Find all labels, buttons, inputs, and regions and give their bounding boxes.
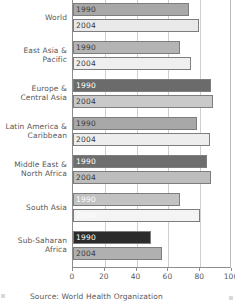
category-label-line: South Asia [0, 203, 67, 212]
tick-mark-20 [104, 268, 105, 271]
category-label: Europe &Central Asia [0, 84, 67, 102]
bar-1990: 1990 [73, 117, 197, 130]
bar-1990: 1990 [73, 79, 211, 92]
category-label-line: Africa [0, 245, 67, 254]
page-corner-artifact-right [229, 296, 233, 300]
bar-1990: 1990 [73, 3, 189, 16]
tick-label-80: 80 [194, 272, 204, 281]
bar-2004: 2004 [73, 57, 191, 70]
category-label-line: Pacific [0, 55, 67, 64]
bar-series-label: 1990 [74, 234, 96, 242]
category-label-line: Europe & [0, 84, 67, 93]
category-label-line: World [0, 13, 67, 22]
tick-label-60: 60 [163, 272, 173, 281]
bar-group: 19902004 [73, 190, 230, 228]
plot-area: 1990200419902004199020041990200419902004… [72, 0, 231, 268]
bar-2004: 2004 [73, 133, 210, 146]
bar-series-label: 2004 [74, 250, 96, 258]
bar-series-label: 2004 [74, 212, 96, 220]
tick-label-40: 40 [131, 272, 141, 281]
page-corner-artifact-left [1, 294, 5, 298]
tick-label-20: 20 [99, 272, 109, 281]
category-label-line: North Africa [0, 169, 67, 178]
tick-label-100: 100 [224, 272, 235, 281]
category-axis-labels: WorldEast Asia &PacificEurope &Central A… [0, 0, 70, 268]
tick-mark-100 [231, 268, 232, 271]
bar-1990: 1990 [73, 41, 180, 54]
category-label-line: Caribbean [0, 131, 67, 140]
chart-container: WorldEast Asia &PacificEurope &Central A… [0, 0, 235, 308]
category-label: East Asia &Pacific [0, 46, 67, 64]
category-label-line: Sub-Saharan [0, 236, 67, 245]
bar-series-label: 2004 [74, 60, 96, 68]
category-label: South Asia [0, 203, 67, 212]
category-label-line: East Asia & [0, 46, 67, 55]
bar-group: 19902004 [73, 0, 230, 38]
bar-series-label: 2004 [74, 136, 96, 144]
bar-series-label: 1990 [74, 44, 96, 52]
bar-series-label: 2004 [74, 98, 96, 106]
bar-series-label: 1990 [74, 6, 96, 14]
bar-groups: 1990200419902004199020041990200419902004… [73, 0, 230, 267]
bar-group: 19902004 [73, 228, 230, 266]
tick-label-0: 0 [70, 272, 75, 281]
category-label: Latin America &Caribbean [0, 122, 67, 140]
bar-2004: 2004 [73, 209, 200, 222]
bar-1990: 1990 [73, 231, 151, 244]
source-note: Source: World Health Organization [30, 292, 163, 301]
bar-series-label: 1990 [74, 158, 96, 166]
bar-2004: 2004 [73, 247, 162, 260]
bar-series-label: 1990 [74, 82, 96, 90]
category-label: World [0, 13, 67, 22]
bar-series-label: 2004 [74, 174, 96, 182]
tick-mark-60 [167, 268, 168, 271]
tick-mark-40 [136, 268, 137, 271]
bar-group: 19902004 [73, 38, 230, 76]
bar-2004: 2004 [73, 95, 213, 108]
tick-mark-80 [199, 268, 200, 271]
category-label-line: Latin America & [0, 122, 67, 131]
category-label: Sub-SaharanAfrica [0, 236, 67, 254]
bar-group: 19902004 [73, 76, 230, 114]
bar-series-label: 2004 [74, 22, 96, 30]
bar-1990: 1990 [73, 155, 207, 168]
bar-2004: 2004 [73, 19, 199, 32]
category-label-line: Middle East & [0, 160, 67, 169]
bar-2004: 2004 [73, 171, 211, 184]
bar-group: 19902004 [73, 152, 230, 190]
bar-group: 19902004 [73, 114, 230, 152]
category-label-line: Central Asia [0, 93, 67, 102]
value-axis: 020406080100 [72, 268, 231, 284]
bar-series-label: 1990 [74, 120, 96, 128]
bar-1990: 1990 [73, 193, 180, 206]
tick-mark-0 [72, 268, 73, 271]
bar-series-label: 1990 [74, 196, 96, 204]
category-label: Middle East &North Africa [0, 160, 67, 178]
